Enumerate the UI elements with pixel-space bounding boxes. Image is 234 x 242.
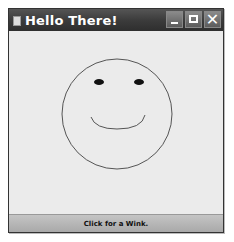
smiley-face (9, 31, 223, 216)
smile-mouth (91, 115, 145, 129)
title-bar[interactable]: Hello There! ✕ (9, 9, 223, 31)
maximize-button[interactable] (185, 11, 202, 28)
app-window: Hello There! ✕ Click for a Wink. (8, 8, 224, 233)
drawing-canvas (9, 31, 223, 216)
left-eye (94, 79, 104, 85)
wink-button[interactable]: Click for a Wink. (9, 214, 223, 232)
right-eye (134, 79, 144, 85)
window-title: Hello There! (25, 13, 118, 28)
close-button[interactable]: ✕ (204, 11, 221, 28)
app-icon[interactable] (12, 15, 22, 25)
face-outline (62, 59, 172, 169)
window-controls: ✕ (166, 11, 221, 28)
minimize-button[interactable] (166, 11, 183, 28)
